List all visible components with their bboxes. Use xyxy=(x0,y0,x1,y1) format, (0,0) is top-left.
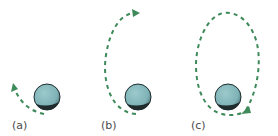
panel-b xyxy=(105,9,151,114)
arrowhead-icon xyxy=(132,9,140,17)
arrowhead-icon xyxy=(241,106,251,114)
panel-label-a: (a) xyxy=(12,119,27,132)
arrowhead-icon xyxy=(11,83,18,92)
planet-c xyxy=(215,84,241,110)
panel-c xyxy=(196,13,259,115)
orbit-diagram xyxy=(0,0,278,136)
planet-a xyxy=(34,84,60,110)
planet-b xyxy=(125,84,151,110)
panel-label-c: (c) xyxy=(191,119,206,132)
panel-a xyxy=(11,83,60,114)
panel-label-b: (b) xyxy=(101,119,117,132)
